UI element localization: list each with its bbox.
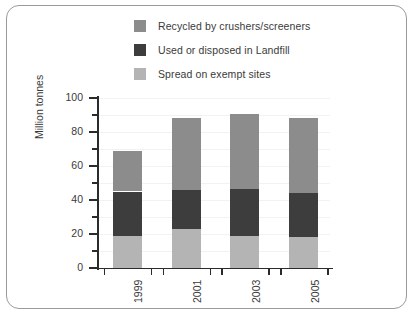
bar-segment — [113, 151, 142, 192]
chart-figure: Recycled by crushers/screeners Used or d… — [0, 0, 413, 316]
x-tick-label: 2001 — [191, 280, 203, 303]
y-tick-minor — [92, 148, 98, 150]
y-tick-major — [89, 267, 98, 269]
y-tick-minor — [92, 216, 98, 218]
y-tick-label: 20 — [57, 227, 83, 239]
x-tick — [221, 268, 223, 275]
bar-segment — [113, 236, 142, 268]
x-tick — [210, 268, 212, 275]
y-tick-label: 0 — [57, 261, 83, 273]
x-tick-label: 1999 — [132, 280, 144, 303]
y-tick-major — [89, 97, 98, 99]
bar-segment — [230, 189, 259, 236]
bar-segment — [230, 236, 259, 268]
x-tick — [268, 268, 270, 275]
x-tick — [280, 268, 282, 275]
bar-segment — [172, 118, 201, 190]
y-tick-major — [89, 233, 98, 235]
gridline — [98, 98, 330, 99]
y-tick-label: 40 — [57, 193, 83, 205]
x-tick-label: 2003 — [250, 280, 262, 303]
y-tick-major — [89, 131, 98, 133]
bar-segment — [289, 237, 318, 268]
bar-segment — [113, 192, 142, 236]
y-tick-label: 100 — [57, 91, 83, 103]
x-tick — [151, 268, 153, 275]
y-tick-major — [89, 165, 98, 167]
y-tick-minor — [92, 114, 98, 116]
y-tick-label: 60 — [57, 159, 83, 171]
y-tick-label: 80 — [57, 125, 83, 137]
x-tick — [163, 268, 165, 275]
bar-segment — [230, 114, 259, 189]
plot-region: Million tonnes 020406080100 199920012003… — [0, 0, 413, 316]
x-axis-line — [97, 268, 333, 270]
y-tick-major — [89, 199, 98, 201]
bar-segment — [289, 193, 318, 237]
y-tick-minor — [92, 182, 98, 184]
x-tick-label: 2005 — [309, 280, 321, 303]
bar-segment — [172, 190, 201, 229]
x-tick — [327, 268, 329, 275]
x-tick — [104, 268, 106, 275]
y-axis-title: Million tonnes — [33, 49, 45, 139]
gridline — [98, 115, 330, 116]
bar-segment — [289, 118, 318, 194]
bar-segment — [172, 229, 201, 268]
y-tick-minor — [92, 250, 98, 252]
